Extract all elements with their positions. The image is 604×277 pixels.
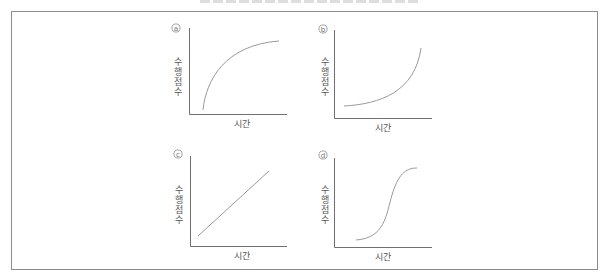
panel-b-curve [344, 48, 421, 106]
panel-a-xlabel: 시간 [222, 117, 262, 130]
panel-b-ylabel: 수행점수 [319, 57, 331, 97]
panel-a-ylabel: 수행점수 [172, 57, 184, 97]
panel-d-ylabel: 수행점수 [319, 185, 331, 225]
panel-a-curve [203, 41, 279, 110]
panel-d-curve [356, 168, 417, 240]
panel-c-axes [191, 156, 288, 247]
panel-d-marker: d [319, 151, 328, 160]
panel-a-marker: a [172, 24, 181, 33]
panel-b-marker: b [319, 25, 328, 34]
panel-d-axes [335, 158, 433, 248]
panel-c-marker: c [174, 150, 183, 159]
panel-c-line [198, 171, 269, 236]
panel-b-xlabel: 시간 [363, 121, 403, 134]
curves-layer [0, 0, 604, 277]
panel-c-xlabel: 시간 [222, 249, 262, 262]
panel-c-ylabel: 수행점수 [173, 185, 185, 225]
panel-d-xlabel: 시간 [363, 250, 403, 263]
